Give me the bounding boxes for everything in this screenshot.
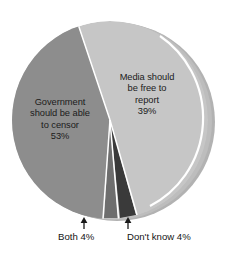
slice-label-media-line2: be free to	[110, 83, 184, 94]
slice-label-government: Government should be able to censor 53%	[14, 97, 106, 143]
pie-chart: Media should be free to report 39% Gover…	[0, 0, 229, 253]
callout-label-both: Both 4%	[58, 231, 94, 242]
slice-label-government-line1: Government	[14, 97, 106, 108]
arrow-head-both-icon	[81, 217, 88, 223]
slice-label-government-line2: should be able	[14, 108, 106, 119]
slice-label-media: Media should be free to report 39%	[110, 72, 184, 118]
slice-label-media-line3: report	[110, 95, 184, 106]
slice-label-media-percent: 39%	[110, 106, 184, 117]
slice-label-government-percent: 53%	[14, 131, 106, 142]
callout-label-dont-know: Don't know 4%	[127, 231, 191, 242]
slice-label-government-line3: to censor	[14, 120, 106, 131]
callout-arrows	[84, 220, 128, 229]
slice-label-media-line1: Media should	[110, 72, 184, 83]
